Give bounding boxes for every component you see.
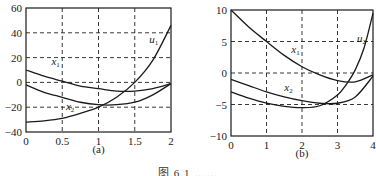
x-tick-label: 3 — [335, 139, 341, 151]
series-label-x1: x1 — [290, 43, 300, 57]
figure: 00.511.526040200−20−40x1x2u1(a) 01234105… — [0, 0, 376, 176]
series-label-x1: x1 — [50, 55, 60, 69]
y-tick-label: −40 — [5, 126, 23, 138]
x-tick-label: 1.5 — [128, 135, 142, 147]
x-tick-label: 2 — [168, 135, 174, 147]
panel-label: (b) — [296, 147, 309, 160]
x-tick-label: 0 — [23, 135, 29, 147]
y-tick-label: −20 — [5, 101, 23, 113]
y-tick-label: 20 — [11, 52, 23, 64]
x-tick-label: 1 — [264, 139, 270, 151]
x-tick-label: 4 — [370, 139, 376, 151]
y-tick-label: 60 — [11, 2, 23, 14]
y-tick-label: 5 — [222, 36, 228, 48]
panel-a: 00.511.526040200−20−40x1x2u1(a) — [5, 2, 174, 156]
series-label-x2: x2 — [283, 81, 293, 95]
series-label-u2: u2 — [357, 32, 367, 46]
y-tick-label: 0 — [222, 67, 228, 79]
y-tick-label: 10 — [216, 4, 228, 16]
panel-b: 012341050−5−10x1x2u2(b) — [210, 4, 376, 160]
series-label-u1: u1 — [149, 33, 159, 47]
y-tick-label: 40 — [11, 27, 23, 39]
x-tick-label: 0.5 — [55, 135, 69, 147]
figure-caption: 图 6.1 …… — [0, 164, 376, 176]
series-label-x2: x2 — [65, 100, 75, 114]
y-tick-label: −5 — [215, 99, 227, 111]
x-tick-label: 0 — [228, 139, 234, 151]
y-tick-label: 0 — [17, 76, 23, 88]
y-tick-label: −10 — [210, 130, 228, 142]
panel-label: (a) — [92, 143, 105, 156]
